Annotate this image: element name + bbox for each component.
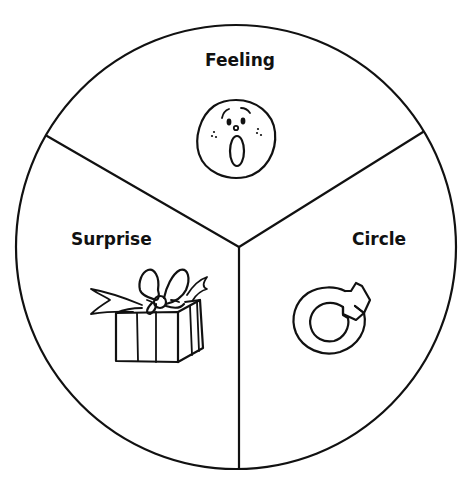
three-part-circle-diagram: Feeling Surprise Circle [0,0,464,484]
circular-arrow-icon [293,283,370,353]
segment-label-feeling: Feeling [205,52,275,69]
segment-label-circle: Circle [352,231,406,248]
surprised-face-icon [197,100,275,178]
segment-label-surprise: Surprise [71,231,152,248]
gift-box-icon [91,270,207,362]
segment-dividers [47,132,423,469]
